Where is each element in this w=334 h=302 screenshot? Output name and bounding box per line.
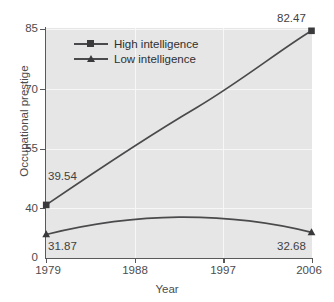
x-axis-line xyxy=(45,258,312,259)
y-tick-label-85: 85 xyxy=(25,23,38,35)
x-tick-1988 xyxy=(135,258,136,263)
legend-label-low-intelligence: Low intelligence xyxy=(114,53,196,65)
legend-label-high-intelligence: High intelligence xyxy=(114,38,198,50)
x-tick-label-1988: 1988 xyxy=(122,265,148,277)
y-tick-55 xyxy=(40,149,46,150)
gridline-y-85 xyxy=(46,29,312,30)
y-axis-line xyxy=(45,27,46,259)
x-tick-label-1979: 1979 xyxy=(35,265,61,277)
data-label-high-end: 82.47 xyxy=(277,13,306,25)
data-label-low-start: 31.87 xyxy=(48,241,77,253)
legend-item-low-intelligence[interactable]: Low intelligence xyxy=(74,51,198,66)
gridline-y-55 xyxy=(46,149,312,150)
y-tick-40 xyxy=(40,208,46,209)
x-tick-1979 xyxy=(46,258,47,263)
data-label-low-end: 32.68 xyxy=(277,241,306,253)
y-axis-title: Occupational prestige xyxy=(18,41,30,201)
legend-square-marker-icon xyxy=(74,38,108,50)
line-chart-figure: 85 70 55 40 0 1979 1988 1997 2006 Occupa… xyxy=(0,0,334,302)
y-tick-70 xyxy=(40,89,46,90)
legend: High intelligence Low intelligence xyxy=(74,36,198,66)
x-axis-title: Year xyxy=(0,283,334,295)
gridline-y-40 xyxy=(46,208,312,209)
legend-triangle-marker-icon xyxy=(74,53,108,65)
x-tick-2006 xyxy=(312,258,313,263)
data-label-high-start: 39.54 xyxy=(48,171,77,183)
x-tick-1997 xyxy=(223,258,224,263)
y-tick-label-0: 0 xyxy=(32,252,38,264)
x-tick-label-1997: 1997 xyxy=(210,265,236,277)
legend-item-high-intelligence[interactable]: High intelligence xyxy=(74,36,198,51)
x-tick-label-2006: 2006 xyxy=(296,265,322,277)
gridline-y-70 xyxy=(46,89,312,90)
y-tick-85 xyxy=(40,29,46,30)
y-tick-label-40: 40 xyxy=(25,203,38,215)
gridline-x-1997 xyxy=(223,28,224,258)
